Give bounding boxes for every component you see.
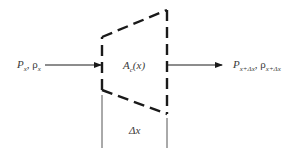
- area-symbol: A: [123, 59, 130, 71]
- outlet-pressure-subscript: x+Δx: [240, 65, 255, 73]
- delta-x-text: Δx: [129, 124, 140, 136]
- inlet-label: Px, ρx: [17, 58, 41, 73]
- inlet-pressure-symbol: P: [17, 58, 24, 70]
- outlet-label: Px+Δx, ρx+Δx: [233, 58, 281, 73]
- width-label: Δx: [129, 124, 140, 136]
- outlet-density-subscript: x+Δx: [266, 65, 281, 73]
- area-label: Ac(x): [123, 59, 145, 74]
- inlet-density-subscript: x: [38, 65, 41, 73]
- control-volume-diagram: [0, 0, 299, 156]
- outlet-pressure-symbol: P: [233, 58, 240, 70]
- area-argument: (x): [133, 59, 145, 71]
